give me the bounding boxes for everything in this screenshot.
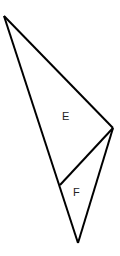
region-label-e: E — [62, 110, 69, 122]
edge-top-bottom — [4, 16, 78, 243]
triangle-diagram: E F — [0, 0, 120, 256]
edge-top-right — [4, 16, 113, 128]
region-label-f: F — [73, 186, 80, 198]
edge-right-bottom — [78, 128, 113, 243]
